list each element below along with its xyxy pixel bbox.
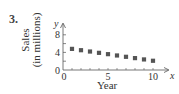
data-point — [70, 47, 74, 51]
data-point — [88, 49, 92, 53]
data-point — [133, 56, 137, 60]
y-axis-variable: y — [53, 18, 59, 29]
x-tick-label: 10 — [148, 71, 158, 82]
data-point — [124, 55, 128, 59]
x-axis-variable: x — [169, 70, 175, 81]
x-tick-label: 0 — [62, 71, 67, 82]
y-tick-label: 8 — [55, 29, 60, 40]
data-point — [115, 53, 119, 57]
x-axis-label: Year — [97, 79, 117, 91]
data-point — [142, 57, 146, 61]
data-point — [151, 59, 155, 63]
data-point — [106, 52, 110, 56]
scatter-plot: 0510048xy — [0, 0, 179, 94]
y-tick-label: 4 — [55, 47, 60, 58]
data-points — [70, 47, 155, 63]
y-tick-label: 0 — [55, 65, 60, 76]
data-point — [79, 48, 83, 52]
data-point — [97, 51, 101, 55]
